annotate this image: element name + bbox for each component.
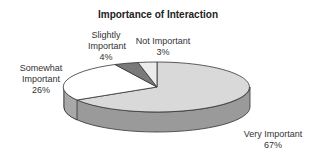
- label-somewhat-important: Somewhat Important 26%: [16, 63, 66, 96]
- label-not-important: Not Important 3%: [132, 36, 194, 58]
- label-very-important: Very Important 67%: [238, 129, 308, 151]
- label-slightly-important: Slightly Important 4%: [88, 30, 124, 63]
